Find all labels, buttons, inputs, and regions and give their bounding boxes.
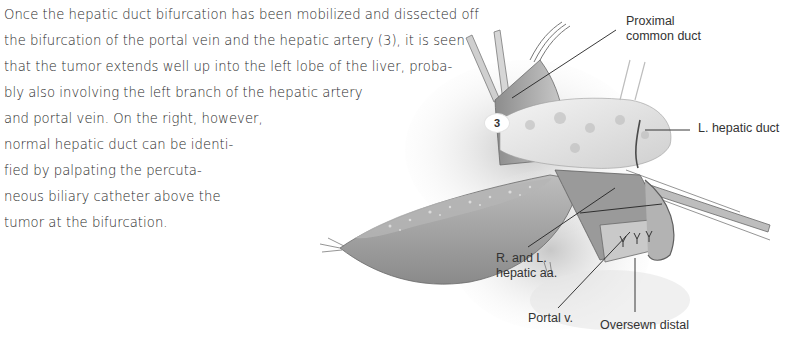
- paragraph-line: normal hepatic duct can be identi-: [4, 136, 233, 154]
- label-portal-v: Portal v.: [528, 311, 573, 326]
- label-line: R. and L.: [496, 251, 557, 266]
- label-line: hepatic aa.: [496, 266, 557, 281]
- paragraph-line: fied by palpating the percuta-: [4, 162, 202, 180]
- label-line: Proximal: [626, 14, 701, 29]
- figure-step-marker: 3: [484, 113, 510, 133]
- label-l-hepatic-duct: L. hepatic duct: [698, 121, 779, 136]
- label-r-and-l-hepatic-aa: R. and L. hepatic aa.: [496, 251, 557, 281]
- paragraph-line: neous biliary catheter above the: [4, 188, 221, 206]
- paragraph-line: tumor at the bifurcation.: [4, 214, 168, 232]
- label-proximal-common-duct: Proximal common duct: [626, 14, 701, 44]
- surgical-illustration: Proximal common duct L. hepatic duct R. …: [300, 0, 787, 338]
- paragraph-line: and portal vein. On the right, however,: [4, 110, 263, 128]
- label-line: common duct: [626, 29, 701, 44]
- label-oversewn-distal: Oversewn distal: [600, 318, 689, 333]
- anatomy-drawing: [300, 0, 787, 338]
